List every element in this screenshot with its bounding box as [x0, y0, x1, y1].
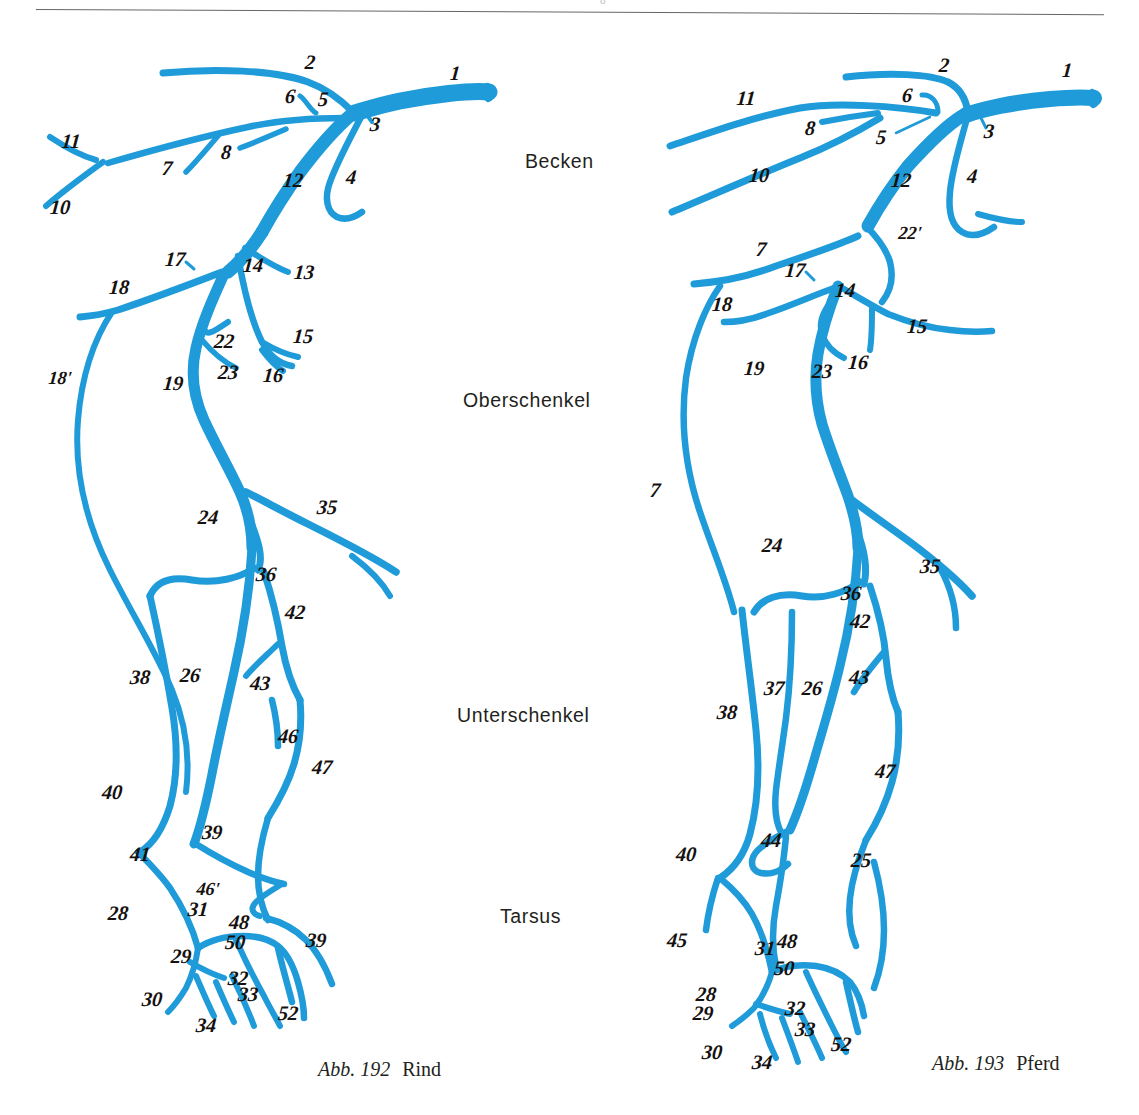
structure-label-24: 24: [761, 535, 783, 556]
vessel-segment-47b: [258, 818, 268, 920]
region-label-becken: Becken: [525, 150, 594, 173]
vessel-segment-35: [852, 500, 972, 596]
structure-label-1: 1: [1061, 60, 1073, 81]
figure-caption-figure-pferd: Abb. 193Pferd: [932, 1052, 1060, 1075]
structure-label-19: 19: [743, 358, 765, 379]
vessel-segment-5-leader: [896, 117, 930, 133]
vessel-segment-4b: [978, 214, 1022, 222]
figure-species-name: Rind: [402, 1058, 441, 1080]
figure-number: Abb. 192: [318, 1058, 390, 1080]
vessel-segment-38: [720, 610, 758, 878]
structure-label-44: 44: [760, 830, 782, 851]
structure-label-40: 40: [675, 844, 697, 865]
structure-label-15: 15: [906, 316, 928, 337]
structure-label-29: 29: [692, 1003, 714, 1024]
structure-label-35: 35: [316, 497, 338, 518]
structure-label-15: 15: [292, 326, 314, 347]
vessel-segment-11: [670, 105, 936, 146]
vessel-segment-6: [300, 96, 316, 113]
structure-label-4: 4: [345, 167, 357, 188]
structure-label-43: 43: [249, 673, 271, 694]
structure-label-47: 47: [311, 757, 333, 778]
structure-label-42: 42: [284, 602, 306, 623]
structure-label-38: 38: [129, 667, 151, 688]
structure-label-29: 29: [170, 946, 192, 967]
structure-label-48: 48: [228, 912, 250, 933]
vessel-segment-7: [694, 236, 858, 284]
structure-label-5: 5: [875, 127, 887, 148]
vessel-segment-7-loop: [684, 286, 734, 612]
structure-label-50: 50: [224, 932, 246, 953]
structure-label-38: 38: [716, 702, 738, 723]
structure-label-45: 45: [666, 930, 688, 951]
structure-label-16: 16: [262, 365, 284, 386]
vessel-tree-rind: [46, 70, 494, 1026]
structure-label-30: 30: [701, 1042, 723, 1063]
structure-label-8: 8: [220, 142, 232, 163]
structure-label-6: 6: [284, 86, 296, 107]
structure-label-36: 36: [255, 564, 277, 585]
structure-label-5: 5: [317, 89, 329, 110]
structure-label-36: 36: [840, 583, 862, 604]
vessel-tree-pferd: [670, 74, 1099, 1062]
structure-label-23: 23: [217, 362, 239, 383]
structure-label-4: 4: [966, 166, 978, 187]
structure-label-25: 25: [850, 850, 872, 871]
structure-label-11: 11: [61, 131, 82, 152]
structure-label-46: 46: [277, 726, 299, 747]
structure-label-10: 10: [49, 197, 71, 218]
vessel-segment-18: [80, 272, 222, 317]
figure-number: Abb. 193: [932, 1052, 1004, 1074]
figure-page: o: [0, 0, 1139, 1115]
structure-label-46prime: 46': [196, 880, 220, 899]
structure-label-13: 13: [293, 262, 315, 283]
structure-label-42: 42: [849, 611, 871, 632]
vessel-segment-17-leader: [806, 272, 814, 280]
vessel-segment-1: [355, 92, 489, 113]
structure-label-7: 7: [161, 158, 173, 179]
structure-label-12: 12: [282, 170, 304, 191]
structure-label-37: 37: [763, 678, 785, 699]
structure-label-22: 22: [213, 331, 235, 352]
structure-label-30: 30: [141, 989, 163, 1010]
structure-label-26: 26: [179, 665, 201, 686]
vessel-segment-47b: [874, 862, 884, 988]
structure-label-17: 17: [164, 249, 186, 270]
structure-label-50: 50: [773, 958, 795, 979]
vessel-segment-28-30: [732, 972, 772, 1026]
structure-label-23: 23: [811, 361, 833, 382]
structure-label-48: 48: [776, 931, 798, 952]
structure-label-2: 2: [938, 55, 950, 76]
structure-label-24: 24: [197, 507, 219, 528]
region-label-oberschenkel: Oberschenkel: [463, 389, 591, 412]
vessel-segment-18: [724, 288, 834, 322]
structure-label-31: 31: [187, 899, 209, 920]
vessel-segment-37: [775, 612, 792, 834]
structure-label-6: 6: [901, 85, 913, 106]
structure-label-39: 39: [305, 930, 327, 951]
structure-label-12: 12: [890, 170, 912, 191]
vessel-segment-8: [240, 129, 286, 148]
structure-label-40: 40: [101, 782, 123, 803]
figure-species-name: Pferd: [1016, 1052, 1059, 1074]
structure-label-52: 52: [277, 1003, 299, 1024]
structure-label-41: 41: [129, 844, 151, 865]
structure-label-3: 3: [369, 114, 381, 135]
structure-label-33: 33: [237, 984, 259, 1005]
structure-label-14: 14: [834, 280, 856, 301]
structure-label-39: 39: [201, 822, 223, 843]
vessel-segment-1: [966, 97, 1094, 115]
structure-label-33: 33: [794, 1019, 816, 1040]
structure-label-16: 16: [847, 352, 869, 373]
structure-label-7: 7: [755, 239, 767, 260]
structure-label-10: 10: [748, 165, 770, 186]
vessel-segment-26: [194, 548, 252, 844]
structure-label-35: 35: [919, 556, 941, 577]
structure-label-19: 19: [162, 373, 184, 394]
structure-label-26: 26: [801, 678, 823, 699]
vessel-segment-16: [870, 308, 872, 350]
structure-label-47: 47: [874, 761, 896, 782]
structure-label-28: 28: [107, 903, 129, 924]
structure-label-22prime: 22': [898, 224, 922, 243]
structure-label-18: 18: [108, 277, 130, 298]
